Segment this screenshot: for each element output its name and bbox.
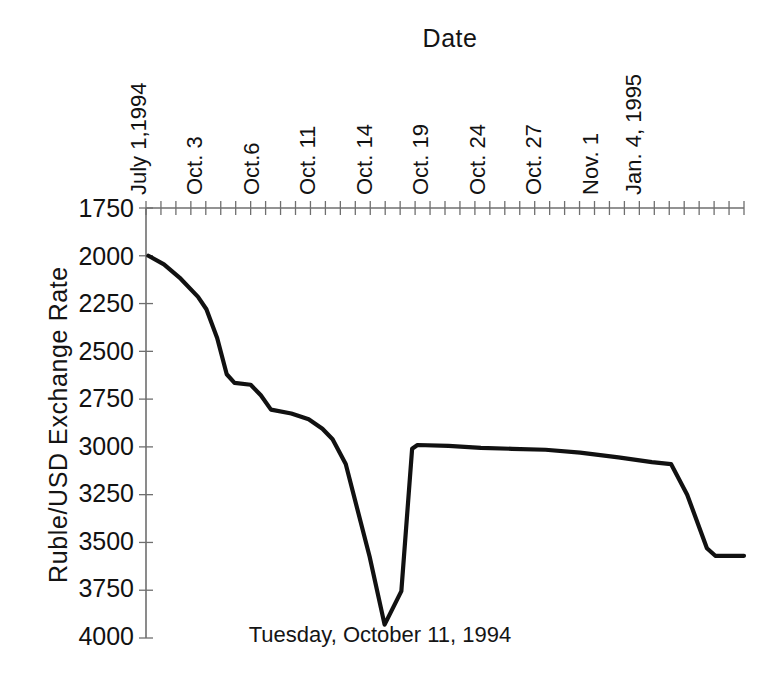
x-axis-ticks (146, 201, 744, 215)
plot-annotation-black-tuesday: Tuesday, October 11, 1994 (160, 622, 600, 648)
plot-area (0, 0, 762, 695)
exchange-rate-chart: Date July 1,1994 Oct. 3 Oct.6 Oct. 11 Oc… (0, 0, 762, 695)
exchange-rate-line (148, 256, 744, 625)
